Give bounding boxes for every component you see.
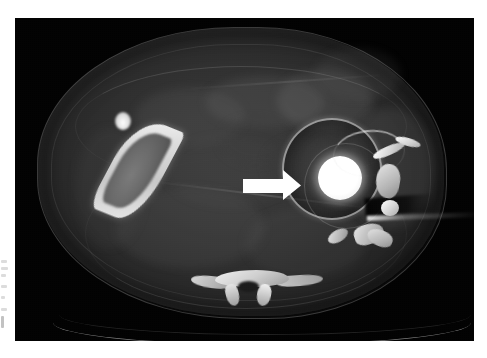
margin-mark bbox=[1, 274, 6, 277]
margin-mark bbox=[1, 316, 4, 328]
figure-root bbox=[0, 0, 487, 358]
page-margin-marks bbox=[1, 258, 10, 332]
margin-mark bbox=[1, 285, 7, 288]
scanner-table-line bbox=[53, 300, 471, 341]
bone-tip-highlight bbox=[115, 112, 131, 130]
margin-mark bbox=[1, 308, 7, 311]
acetabular-bone-fragment bbox=[381, 200, 399, 216]
sacral-canal bbox=[238, 281, 259, 292]
margin-mark bbox=[1, 260, 7, 263]
margin-mark bbox=[1, 267, 8, 270]
margin-mark bbox=[1, 296, 5, 299]
ct-scan-panel bbox=[15, 18, 474, 341]
femoral-shaft-bone bbox=[101, 112, 197, 232]
